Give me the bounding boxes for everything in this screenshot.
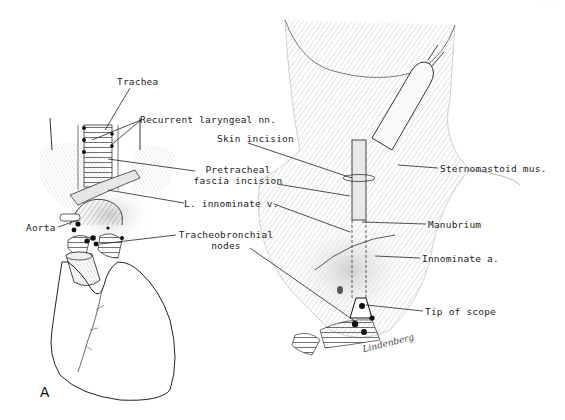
label-manubrium: Manubrium	[428, 219, 481, 230]
label-pretracheal-line2: fascia incision	[193, 175, 283, 186]
anatomical-figure: Trachea Recurrent laryngeal nn. Skin inc…	[0, 0, 565, 420]
corner-text: · · · · · ·	[540, 0, 557, 6]
label-tip-of-scope: Tip of scope	[425, 306, 496, 317]
label-l-innominate-v: L. innominate v.	[184, 198, 279, 209]
label-sternomastoid: Sternomastoid mus.	[440, 163, 547, 174]
label-trachea: Trachea	[117, 76, 158, 87]
label-skin-incision: Skin incision	[217, 133, 294, 144]
label-innominate-a: Innominate a.	[422, 253, 499, 264]
label-aorta: Aorta	[26, 222, 56, 233]
label-pretracheal-line1: Pretracheal	[193, 164, 283, 175]
label-pretracheal-fascia: Pretracheal fascia incision	[193, 164, 283, 186]
illustration-artwork	[0, 0, 565, 420]
label-tracheobronchial-nodes: Tracheobronchial nodes	[176, 229, 276, 251]
label-tracheobronchial-line1: Tracheobronchial	[176, 229, 276, 240]
left-panel-drawing	[40, 118, 175, 400]
label-tracheobronchial-line2: nodes	[176, 240, 276, 251]
panel-letter: A	[40, 384, 49, 400]
label-recurrent-laryngeal: Recurrent laryngeal nn.	[140, 114, 276, 125]
